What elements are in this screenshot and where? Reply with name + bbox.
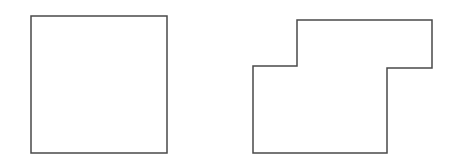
shape-figure-canvas — [0, 0, 459, 165]
figure-container — [0, 0, 459, 165]
left-square-shape — [31, 16, 167, 153]
